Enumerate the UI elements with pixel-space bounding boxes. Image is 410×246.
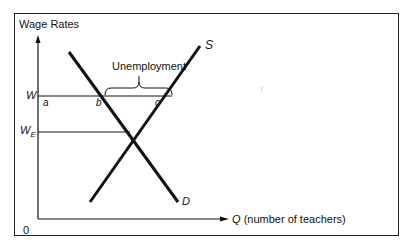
unemployment-label: Unemployment	[112, 61, 186, 72]
x-axis-symbol: Q	[232, 213, 241, 225]
wage-equilibrium-subscript: E	[30, 130, 35, 139]
demand-label: D	[182, 196, 190, 207]
x-axis-arrow-icon	[220, 217, 229, 222]
unemployment-brace	[105, 82, 172, 95]
y-axis-label: Wage Rates	[19, 19, 79, 30]
y-axis-arrow-icon	[36, 35, 41, 43]
x-axis-text: (number of teachers)	[244, 213, 346, 225]
point-c-label: c	[155, 98, 160, 108]
supply-demand-diagram	[0, 0, 410, 246]
demand-curve	[69, 52, 178, 202]
wage-w-label: W	[26, 90, 36, 101]
x-axis-label: Q (number of teachers)	[232, 214, 346, 225]
wage-equilibrium-label: WE	[20, 125, 36, 139]
point-a-label: a	[43, 98, 49, 108]
origin-label: 0	[23, 225, 29, 236]
stray-mark: !	[261, 86, 263, 94]
supply-label: S	[205, 39, 213, 51]
point-b-label: b	[96, 98, 102, 108]
wage-equilibrium-base: W	[20, 124, 30, 136]
